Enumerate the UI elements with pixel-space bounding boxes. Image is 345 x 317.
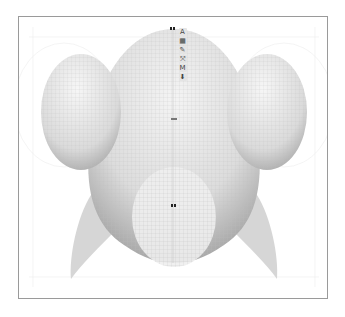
belly-handle[interactable] — [171, 204, 177, 207]
transform-icon[interactable]: ⤧ — [179, 55, 187, 63]
model-viewport[interactable]: A ▦ ✎ ⤧ M ⬇ — [18, 16, 328, 299]
gizmo-toolbar: A ▦ ✎ ⤧ M ⬇ — [178, 28, 187, 81]
mask-icon[interactable]: M — [179, 64, 187, 72]
wireframe-model[interactable] — [19, 17, 328, 299]
down-arrow-icon[interactable]: ⬇ — [179, 73, 187, 81]
text-icon[interactable]: A — [179, 28, 187, 36]
brush-icon[interactable]: ✎ — [179, 46, 187, 54]
layer-icon[interactable]: ▦ — [179, 37, 187, 45]
top-handle[interactable] — [170, 27, 176, 30]
center-handle[interactable] — [171, 118, 177, 120]
